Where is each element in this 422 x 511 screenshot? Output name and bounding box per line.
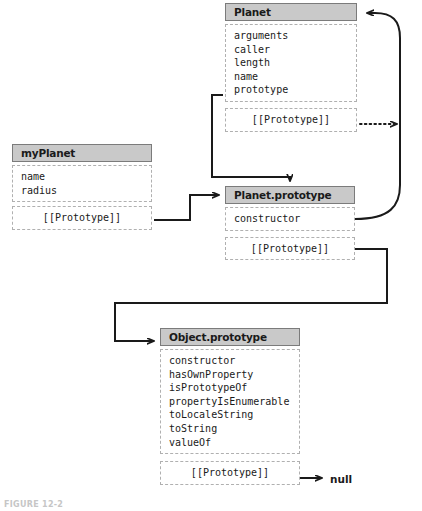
property-item: hasOwnProperty [169, 368, 299, 382]
property-item: radius [21, 184, 151, 198]
property-item: isPrototypeOf [169, 381, 299, 395]
prototype-slot-myplanet: [[Prototype]] [12, 206, 152, 230]
object-title-planet-prototype: Planet.prototype [225, 186, 355, 204]
property-list-planet: arguments caller length name prototype [225, 24, 357, 102]
connector-myplanet-to-planetprototype [154, 195, 219, 220]
null-terminal-label: null [330, 473, 352, 485]
prototype-slot-object-prototype: [[Prototype]] [160, 461, 300, 485]
property-list-planet-prototype: constructor [225, 207, 355, 231]
figure-caption: FIGURE 12-2 [4, 500, 63, 509]
diagram-canvas: Planet arguments caller length name prot… [0, 0, 422, 511]
object-box-planet: Planet arguments caller length name prot… [225, 3, 357, 132]
property-item: caller [234, 43, 356, 57]
object-box-planet-prototype: Planet.prototype constructor [[Prototype… [225, 186, 355, 260]
property-list-object-prototype: constructor hasOwnProperty isPrototypeOf… [160, 349, 300, 454]
property-item: constructor [234, 212, 354, 226]
property-item: name [234, 70, 356, 84]
object-title-planet: Planet [225, 3, 357, 21]
object-box-object-prototype: Object.prototype constructor hasOwnPrope… [160, 328, 300, 485]
property-item: toLocaleString [169, 408, 299, 422]
property-item: propertyIsEnumerable [169, 395, 299, 409]
property-item: arguments [234, 29, 356, 43]
property-item: valueOf [169, 436, 299, 450]
prototype-slot-planet: [[Prototype]] [225, 108, 357, 132]
prototype-slot-planet-prototype: [[Prototype]] [225, 237, 355, 261]
property-item: name [21, 170, 151, 184]
property-item: length [234, 56, 356, 70]
property-item: toString [169, 422, 299, 436]
object-title-myplanet: myPlanet [12, 144, 152, 162]
property-item: constructor [169, 354, 299, 368]
object-box-myplanet: myPlanet name radius [[Prototype]] [12, 144, 152, 230]
object-title-object-prototype: Object.prototype [160, 328, 300, 346]
property-list-myplanet: name radius [12, 165, 152, 202]
property-item: prototype [234, 83, 356, 97]
